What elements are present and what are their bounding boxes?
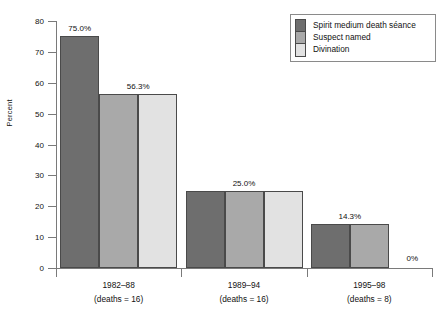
x-axis-group-tick [307, 268, 308, 277]
y-axis-tick-label: 30 [0, 171, 44, 180]
legend-swatch [296, 44, 305, 56]
bar-value-label: 75.0% [68, 24, 91, 33]
legend-swatch-stack [295, 19, 306, 57]
bar [350, 224, 389, 268]
y-axis-tick-label: 60 [0, 78, 44, 87]
bar-value-label: 14.3% [338, 212, 361, 221]
group-deaths-label: (deaths = 8) [347, 292, 392, 306]
group-range-label: 1989–94 [219, 278, 268, 292]
y-axis-tick-label: 50 [0, 109, 44, 118]
legend-label-stack: Spirit medium death séanceSuspect namedD… [313, 19, 416, 55]
y-axis-tick-label: 70 [0, 47, 44, 56]
group-range-label: 1995–98 [347, 278, 392, 292]
group-deaths-label: (deaths = 16) [94, 292, 143, 306]
group-range-label: 1982–88 [94, 278, 143, 292]
bar-value-label: 0% [407, 254, 419, 263]
bar [99, 94, 138, 268]
legend-swatch [296, 32, 305, 44]
bar [138, 94, 177, 268]
x-axis-group-tick [56, 268, 57, 277]
y-axis-tick-label: 0 [0, 264, 44, 273]
x-axis-group-caption: 1989–94(deaths = 16) [219, 278, 268, 306]
x-axis-group-caption: 1995–98(deaths = 8) [347, 278, 392, 306]
y-axis-tick-label: 40 [0, 140, 44, 149]
bar-value-label: 56.3% [127, 82, 150, 91]
group-deaths-label: (deaths = 16) [219, 292, 268, 306]
x-axis-group-caption: 1982–88(deaths = 16) [94, 278, 143, 306]
y-axis-tick-label: 80 [0, 17, 44, 26]
bar [225, 191, 264, 268]
legend-swatch [296, 20, 305, 32]
bar [311, 224, 350, 268]
legend: Spirit medium death séanceSuspect namedD… [290, 14, 436, 62]
x-axis-group-tick [181, 268, 182, 277]
bar-value-label: 25.0% [233, 179, 256, 188]
legend-label: Suspect named [313, 31, 416, 43]
y-axis-tick-label: 10 [0, 233, 44, 242]
bar [186, 191, 225, 268]
y-axis-tick-label: 20 [0, 202, 44, 211]
x-axis-line [56, 268, 432, 269]
bar-chart: Percent 01020304050607080 75.0%56.3%25.0… [0, 0, 443, 315]
legend-label: Divination [313, 43, 416, 55]
bar [60, 36, 99, 268]
bar [264, 191, 303, 268]
x-axis-group-tick [432, 268, 433, 277]
legend-label: Spirit medium death séance [313, 19, 416, 31]
